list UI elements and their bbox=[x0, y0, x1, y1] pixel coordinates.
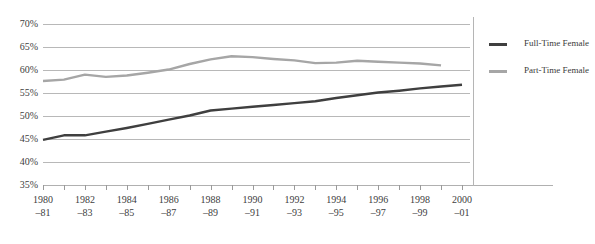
legend-label: Part-Time Female bbox=[513, 65, 589, 76]
x-axis-tick-label: 1984–85 bbox=[105, 193, 149, 219]
x-label-year-suffix: –91 bbox=[231, 206, 275, 219]
x-label-year: 1984 bbox=[117, 194, 137, 205]
x-axis-tick bbox=[462, 185, 463, 190]
y-axis-tick-label: 60% bbox=[0, 65, 38, 75]
x-axis-tick bbox=[106, 185, 107, 190]
legend-divider bbox=[473, 17, 474, 186]
x-axis-tick-label: 1988–89 bbox=[189, 193, 233, 219]
x-label-year-suffix: –95 bbox=[314, 206, 358, 219]
x-label-year: 1990 bbox=[243, 194, 263, 205]
x-label-year: 1994 bbox=[326, 194, 346, 205]
y-axis-tick-label: 45% bbox=[0, 134, 38, 144]
legend-line-swatch bbox=[489, 43, 507, 46]
x-axis-tick-label: 1982–83 bbox=[63, 193, 107, 219]
series-layer bbox=[43, 24, 470, 185]
x-label-year: 1992 bbox=[284, 194, 304, 205]
x-label-year-suffix: –01 bbox=[440, 206, 484, 219]
legend-item[interactable]: Part-Time Female bbox=[489, 65, 589, 89]
y-axis-tick-label: 65% bbox=[0, 42, 38, 52]
x-axis-tick bbox=[399, 185, 400, 190]
x-axis-tick bbox=[127, 185, 128, 190]
x-axis-tick bbox=[43, 185, 44, 190]
y-axis-tick-label: 35% bbox=[0, 180, 38, 190]
x-axis-tick-label: 1986–87 bbox=[147, 193, 191, 219]
chart-title bbox=[70, 0, 460, 3]
x-label-year-suffix: –87 bbox=[147, 206, 191, 219]
series-line bbox=[43, 85, 462, 140]
chart-legend: Full-Time FemalePart-Time Female bbox=[489, 38, 589, 92]
x-axis-tick-label: 2000–01 bbox=[440, 193, 484, 219]
x-label-year: 1988 bbox=[201, 194, 221, 205]
plot-area bbox=[43, 24, 470, 185]
x-axis-tick bbox=[294, 185, 295, 190]
x-axis-tick bbox=[148, 185, 149, 190]
legend-line-swatch bbox=[489, 70, 507, 73]
x-axis-tick bbox=[336, 185, 337, 190]
x-label-year-suffix: –97 bbox=[356, 206, 400, 219]
y-axis-tick-label: 50% bbox=[0, 111, 38, 121]
x-axis-tick-label: 1996–97 bbox=[356, 193, 400, 219]
x-axis-tick bbox=[357, 185, 358, 190]
x-label-year: 1980 bbox=[33, 194, 53, 205]
x-axis-tick bbox=[273, 185, 274, 190]
x-axis-tick bbox=[85, 185, 86, 190]
x-axis-tick bbox=[232, 185, 233, 190]
x-axis-tick-label: 1980–81 bbox=[21, 193, 65, 219]
x-label-year-suffix: –93 bbox=[272, 206, 316, 219]
series-line bbox=[43, 56, 441, 81]
x-label-year: 1986 bbox=[159, 194, 179, 205]
x-axis-tick bbox=[420, 185, 421, 190]
x-axis-line bbox=[43, 185, 553, 186]
y-axis-tick-label: 55% bbox=[0, 88, 38, 98]
x-label-year: 1998 bbox=[410, 194, 430, 205]
x-axis-tick-label: 1998–99 bbox=[398, 193, 442, 219]
x-axis-tick bbox=[315, 185, 316, 190]
x-axis-tick bbox=[378, 185, 379, 190]
legend-label: Full-Time Female bbox=[513, 38, 589, 49]
x-label-year-suffix: –81 bbox=[21, 206, 65, 219]
x-label-year-suffix: –83 bbox=[63, 206, 107, 219]
x-axis-tick bbox=[190, 185, 191, 190]
x-label-year-suffix: –89 bbox=[189, 206, 233, 219]
x-label-year-suffix: –99 bbox=[398, 206, 442, 219]
x-axis-tick bbox=[211, 185, 212, 190]
y-axis-tick-label: 70% bbox=[0, 19, 38, 29]
x-label-year: 2000 bbox=[452, 194, 472, 205]
legend-item[interactable]: Full-Time Female bbox=[489, 38, 589, 62]
x-axis-tick bbox=[169, 185, 170, 190]
x-label-year-suffix: –85 bbox=[105, 206, 149, 219]
line-chart: 70%65%60%55%50%45%40%35% Full-Time Femal… bbox=[0, 0, 595, 244]
x-label-year: 1982 bbox=[75, 194, 95, 205]
x-axis-tick-label: 1994–95 bbox=[314, 193, 358, 219]
y-axis-tick-label: 40% bbox=[0, 157, 38, 167]
x-axis-tick bbox=[441, 185, 442, 190]
x-axis-tick-label: 1990–91 bbox=[231, 193, 275, 219]
x-axis-tick bbox=[253, 185, 254, 190]
x-axis-tick-label: 1992–93 bbox=[272, 193, 316, 219]
x-label-year: 1996 bbox=[368, 194, 388, 205]
x-axis-tick bbox=[64, 185, 65, 190]
